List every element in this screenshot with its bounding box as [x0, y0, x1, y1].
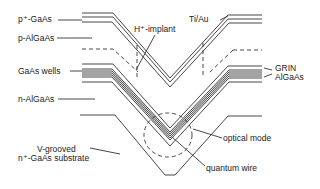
label-p-algaas: p-AlGaAs: [18, 34, 54, 43]
label-h-implant: H⁺-implant: [134, 25, 175, 34]
label-algaas: AlGaAs: [275, 73, 304, 82]
label-quantum-wire: quantum wire: [206, 164, 257, 173]
label-substrate-line2: n⁺-GaAs substrate: [18, 154, 89, 163]
label-n-algaas: n-AlGaAs: [18, 95, 54, 104]
label-ti-au: Ti/Au: [189, 15, 209, 24]
label-gaas-wells: GaAs wells: [18, 67, 61, 76]
label-optical-mode: optical mode: [223, 134, 271, 143]
label-p-gaas: p⁺-GaAs: [18, 15, 52, 24]
